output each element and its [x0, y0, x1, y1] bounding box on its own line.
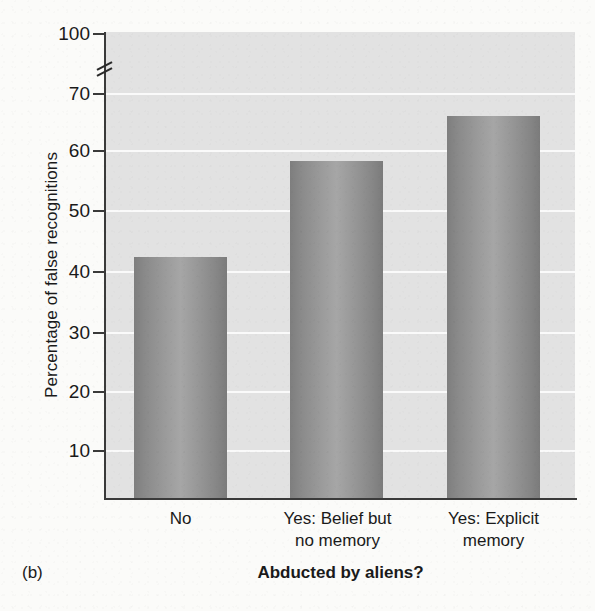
plot-area	[106, 32, 575, 498]
x-tick-label-no-line1: No	[93, 508, 268, 530]
x-axis-line	[104, 498, 577, 500]
y-tick-50	[93, 210, 105, 212]
y-tick-label-20: 20	[20, 381, 90, 403]
x-tick-label-no: No	[93, 508, 268, 530]
y-tick-label-10: 10	[20, 440, 90, 462]
x-tick-label-belief-line2: no memory	[250, 530, 425, 552]
x-tick-label-explicit-line1: Yes: Explicit	[406, 508, 581, 530]
panel-label: (b)	[22, 563, 43, 583]
bar-yes-explicit-memory[interactable]	[447, 116, 540, 498]
y-axis-line	[104, 32, 106, 500]
y-tick-30	[93, 332, 105, 334]
y-tick-40	[93, 271, 105, 273]
y-tick-10	[93, 450, 105, 452]
axis-break-icon	[94, 60, 114, 78]
figure-panel: Percentage of false recognitions 10 20 3…	[0, 0, 595, 611]
x-tick-label-belief-line1: Yes: Belief but	[250, 508, 425, 530]
y-tick-label-40: 40	[20, 261, 90, 283]
bar-yes-belief-no-memory[interactable]	[290, 161, 383, 498]
y-tick-100	[93, 33, 105, 35]
y-tick-70	[93, 93, 105, 95]
x-tick-label-belief: Yes: Belief but no memory	[250, 508, 425, 552]
x-tick-label-explicit-line2: memory	[406, 530, 581, 552]
y-tick-60	[93, 150, 105, 152]
y-tick-20	[93, 391, 105, 393]
x-axis-title: Abducted by aliens?	[106, 563, 575, 583]
y-tick-label-70: 70	[20, 83, 90, 105]
y-tick-label-50: 50	[20, 200, 90, 222]
gridline-70	[106, 93, 575, 95]
y-tick-label-30: 30	[20, 322, 90, 344]
y-tick-label-100: 100	[20, 23, 90, 45]
x-tick-label-explicit: Yes: Explicit memory	[406, 508, 581, 552]
bar-no[interactable]	[134, 257, 227, 498]
y-tick-label-60: 60	[20, 140, 90, 162]
